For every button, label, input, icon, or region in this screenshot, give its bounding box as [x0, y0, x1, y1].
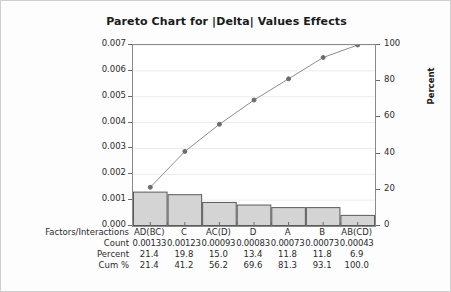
table-row-label: Count: [19, 238, 129, 248]
table-row-cells: AD(BC)CAC(D)DABAB(CD): [132, 227, 379, 238]
y-tick-label-left: 0.002: [80, 168, 126, 177]
y-tick-label-right: 80: [384, 75, 418, 84]
cumulative-markers: [148, 45, 359, 189]
y-tick-mark-right: [376, 44, 380, 45]
y-tick-label-left: 0.001: [80, 194, 126, 203]
cumulative-line: [150, 45, 357, 187]
plot-area: [132, 44, 376, 227]
data-table: Factors/InteractionsAD(BC)CAC(D)DABAB(CD…: [1, 227, 451, 271]
y-tick-label-left: 0.003: [80, 142, 126, 151]
y-tick-mark-right: [376, 153, 380, 154]
table-row: Count0.001330.001230.000930.000830.00073…: [1, 238, 451, 249]
y-tick-label-left: 0.005: [80, 91, 126, 100]
y-axis-label-right: Percent: [426, 46, 440, 126]
bar-series: [134, 192, 375, 225]
y-tick-mark-right: [376, 80, 380, 81]
table-row-label: Percent: [19, 249, 129, 259]
gridlines: [133, 45, 375, 200]
y-tick-label-left: 0.007: [80, 39, 126, 48]
page-title: Pareto Chart for |Delta| Values Effects: [1, 15, 451, 28]
y-tick-label-right: 60: [384, 111, 418, 120]
table-row-cells: 0.001330.001230.000930.000830.000730.000…: [132, 238, 379, 249]
y-tick-label-left: 0.004: [80, 117, 126, 126]
table-row: Factors/InteractionsAD(BC)CAC(D)DABAB(CD…: [1, 227, 451, 238]
y-tick-label-right: 100: [384, 39, 418, 48]
table-row: Cum %21.441.256.269.681.393.1100.0: [1, 260, 451, 271]
table-cell: AB(CD): [333, 227, 381, 237]
chart-page: Pareto Chart for |Delta| Values Effects …: [0, 0, 451, 292]
y-tick-label-left: 0.006: [80, 65, 126, 74]
table-row-label: Cum %: [19, 260, 129, 270]
table-cell: 0.00043: [333, 238, 381, 248]
table-cell: 6.9: [333, 249, 381, 259]
y-tick-mark-right: [376, 189, 380, 190]
table-cell: 100.0: [333, 260, 381, 270]
table-row-label: Factors/Interactions: [19, 227, 129, 237]
table-row: Percent21.419.815.013.411.811.86.9: [1, 249, 451, 260]
pareto-plot: [133, 45, 375, 226]
y-tick-label-right: 20: [384, 184, 418, 193]
y-tick-label-right: 40: [384, 148, 418, 157]
table-row-cells: 21.419.815.013.411.811.86.9: [132, 249, 379, 260]
y-tick-mark-right: [376, 116, 380, 117]
y-tick-mark-right: [376, 225, 380, 226]
table-row-cells: 21.441.256.269.681.393.1100.0: [132, 260, 379, 271]
